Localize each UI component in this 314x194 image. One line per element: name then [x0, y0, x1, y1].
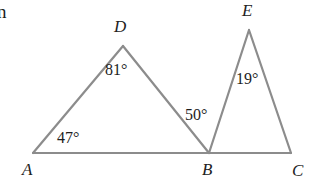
angle-label-50: 50°	[185, 107, 207, 123]
segment-EC	[249, 30, 291, 153]
angle-label-47: 47°	[57, 130, 79, 146]
segment-BE	[209, 30, 249, 153]
cropped-text-fragment: n	[0, 2, 11, 21]
vertex-label-E: E	[242, 2, 252, 19]
vertex-label-A: A	[22, 161, 32, 178]
angle-label-19: 19°	[236, 71, 258, 87]
geometry-diagram-canvas	[0, 0, 314, 194]
vertex-label-B: B	[202, 161, 212, 178]
vertex-label-D: D	[114, 18, 126, 35]
geometry-figure: n A B C D E 47° 81° 50° 19°	[0, 0, 314, 194]
vertex-label-C: C	[292, 162, 303, 179]
segment-DB	[123, 46, 209, 153]
angle-label-81: 81°	[105, 62, 127, 78]
